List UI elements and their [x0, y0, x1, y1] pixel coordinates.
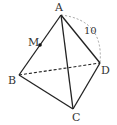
edge-CD	[73, 63, 100, 109]
edge-AC	[61, 15, 73, 109]
label-B: B	[8, 74, 16, 87]
label-arc-length: 10	[84, 25, 97, 36]
diagram-canvas: A M B C D 10	[0, 0, 117, 125]
label-A: A	[54, 1, 64, 14]
tetrahedron-diagram: A M B C D 10	[0, 0, 117, 125]
label-M: M	[28, 36, 39, 49]
label-C: C	[72, 111, 80, 124]
edge-BC	[19, 75, 73, 109]
label-D: D	[101, 64, 110, 77]
edge-BD-hidden	[19, 63, 100, 75]
